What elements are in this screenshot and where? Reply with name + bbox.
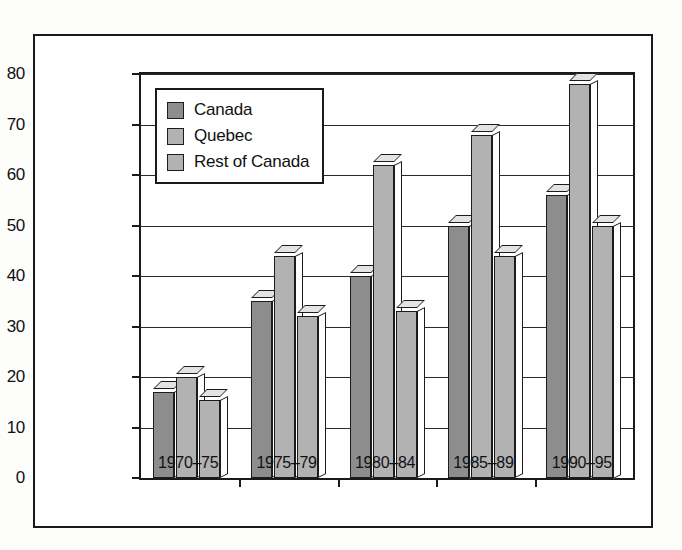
y-tick-label: 70 [0, 115, 25, 135]
x-tick-label: 1975–79 [256, 454, 316, 472]
bar-rest-of-canada-1990–95 [592, 226, 613, 479]
bar-side-face [613, 222, 621, 478]
legend-label: Canada [194, 100, 252, 120]
gridline [141, 74, 633, 75]
y-tick-mark [132, 477, 141, 479]
bar-side-face [417, 307, 425, 478]
x-tick-label: 1970–75 [158, 454, 218, 472]
legend-item-canada: Canada [167, 97, 309, 123]
bar-side-face [318, 313, 326, 478]
plot-area: 01020304050607080 CanadaQuebecRest of Ca… [139, 72, 635, 480]
legend-swatch-icon [167, 102, 184, 119]
legend-item-quebec: Quebec [167, 123, 309, 149]
bar-quebec-1980–84 [373, 165, 394, 478]
legend-swatch-icon [167, 128, 184, 145]
y-tick-mark [132, 326, 141, 328]
bar-top-face [176, 366, 205, 374]
y-tick-mark [132, 225, 141, 227]
bar-top-face [274, 245, 303, 253]
y-tick-mark [132, 124, 141, 126]
chart-legend: CanadaQuebecRest of Canada [155, 88, 324, 184]
y-tick-label: 80 [0, 64, 25, 84]
bar-canada-1975–79 [251, 301, 272, 478]
bar-canada-1990–95 [546, 195, 567, 478]
x-tick-mark [239, 478, 241, 487]
bar-side-face [515, 252, 523, 478]
bar-side-face [220, 396, 228, 478]
y-tick-mark [132, 73, 141, 75]
y-tick-label: 0 [0, 468, 25, 488]
bar-canada-1980–84 [350, 276, 371, 478]
bar-top-face [297, 305, 326, 313]
bar-quebec-1985–89 [471, 135, 492, 478]
y-tick-label: 50 [0, 216, 25, 236]
x-tick-label: 1985–89 [453, 454, 513, 472]
y-tick-mark [132, 427, 141, 429]
x-tick-mark [436, 478, 438, 487]
x-tick-mark [338, 478, 340, 487]
bar-quebec-1990–95 [569, 84, 590, 478]
chart-figure-frame: Percentage of First Unions 0102030405060… [33, 34, 653, 528]
y-tick-label: 60 [0, 165, 25, 185]
x-tick-label: 1980–84 [355, 454, 415, 472]
legend-swatch-icon [167, 154, 184, 171]
bar-rest-of-canada-1980–84 [396, 311, 417, 478]
x-tick-mark [535, 478, 537, 487]
bar-quebec-1975–79 [274, 256, 295, 478]
legend-label: Quebec [194, 126, 252, 146]
legend-item-rest-of-canada: Rest of Canada [167, 149, 309, 175]
x-tick-label: 1990–95 [552, 454, 612, 472]
y-tick-label: 10 [0, 418, 25, 438]
y-tick-label: 40 [0, 266, 25, 286]
y-tick-mark [132, 376, 141, 378]
y-tick-label: 30 [0, 317, 25, 337]
legend-label: Rest of Canada [194, 152, 309, 172]
y-tick-mark [132, 174, 141, 176]
y-tick-label: 20 [0, 367, 25, 387]
y-tick-mark [132, 275, 141, 277]
bar-rest-of-canada-1985–89 [494, 256, 515, 478]
bar-top-face [373, 154, 402, 162]
bar-canada-1985–89 [448, 226, 469, 479]
